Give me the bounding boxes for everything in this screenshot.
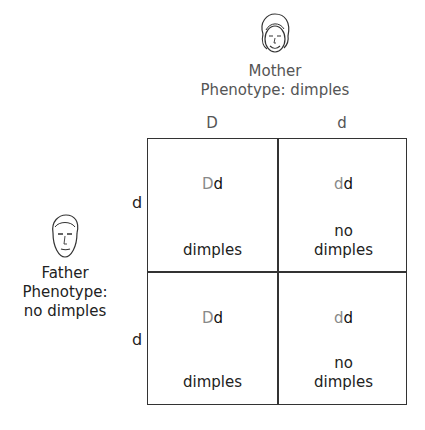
mother-allele: d xyxy=(334,175,344,193)
father-allele: d xyxy=(344,175,354,193)
mother-allele: d xyxy=(334,309,344,327)
genotype: dd xyxy=(279,175,408,193)
mother-title: Mother xyxy=(195,62,355,81)
male-face-icon xyxy=(47,213,83,261)
female-face-icon xyxy=(255,12,295,60)
cell-top-right: dd no dimples xyxy=(279,139,408,271)
father-phenotype-line2: no dimples xyxy=(0,302,130,321)
mother-allele: D xyxy=(202,309,214,327)
mother-allele: D xyxy=(202,175,214,193)
phenotype: dimples xyxy=(148,241,277,260)
phenotype-line2: dimples xyxy=(279,373,408,392)
cell-bottom-right: dd no dimples xyxy=(279,273,408,405)
genotype: Dd xyxy=(148,309,277,327)
father-phenotype-line1: Phenotype: xyxy=(0,283,130,302)
mother-allele-1: D xyxy=(147,114,277,132)
phenotype: dimples xyxy=(148,373,277,392)
phenotype-line1: no xyxy=(279,222,408,241)
phenotype-line2: dimples xyxy=(279,241,408,260)
punnett-square: Dd dimples dd no dimples Dd dimples dd n… xyxy=(147,138,407,405)
mother-allele-2: d xyxy=(277,114,407,132)
father-allele-1: d xyxy=(132,193,142,212)
father-allele: d xyxy=(214,309,224,327)
genotype: Dd xyxy=(148,175,277,193)
father-allele-2: d xyxy=(132,330,142,349)
father-allele: d xyxy=(214,175,224,193)
mother-phenotype: Phenotype: dimples xyxy=(175,81,375,100)
cell-top-left: Dd dimples xyxy=(148,139,277,271)
phenotype-line1: no xyxy=(279,354,408,373)
genotype: dd xyxy=(279,309,408,327)
cell-bottom-left: Dd dimples xyxy=(148,273,277,405)
father-allele: d xyxy=(344,309,354,327)
father-title: Father xyxy=(0,264,130,283)
